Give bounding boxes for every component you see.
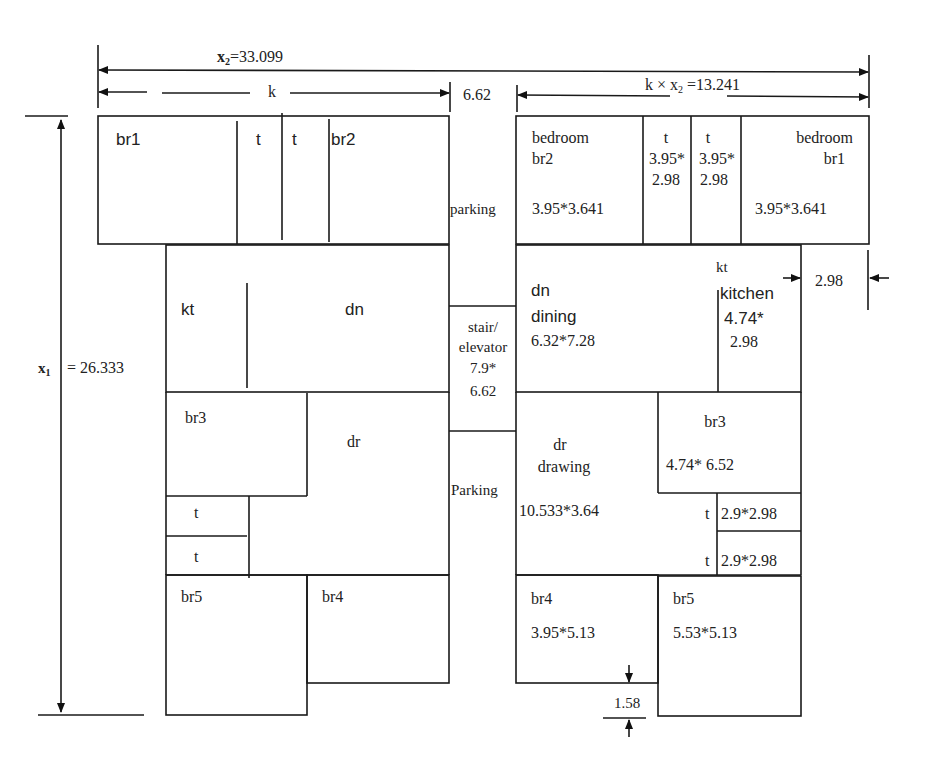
- room-br5: br5: [181, 588, 202, 605]
- stair-label-1: stair/: [468, 319, 499, 335]
- gap-label: 6.62: [463, 86, 491, 103]
- parking-top-label: parking: [450, 201, 496, 217]
- room-kt: kt: [181, 300, 195, 319]
- room-dr-label-1: dr: [553, 436, 567, 453]
- x1-value: = 26.333: [67, 359, 124, 376]
- dimension-k: k 6.62: [99, 82, 491, 112]
- br4-offset-label: 1.58: [614, 695, 640, 711]
- room-br4-size: 3.95*5.13: [531, 624, 595, 641]
- room-br2-label-2: br2: [532, 150, 553, 167]
- room-t1-label: t: [664, 129, 669, 146]
- room-br1: br1: [116, 130, 141, 149]
- room-t2-size-1: 3.95*: [699, 150, 735, 167]
- dimension-x1: x1 = 26.333: [25, 116, 144, 715]
- room-t3-size: 2.9*2.98: [721, 505, 777, 522]
- room-br1-label-2: br1: [824, 150, 845, 167]
- room-t4-size: 2.9*2.98: [721, 552, 777, 569]
- room-t1: t: [256, 130, 261, 149]
- kitchen-width-label: 2.98: [815, 272, 843, 289]
- room-kt-size-2: 2.98: [730, 333, 758, 350]
- room-dr-size: 10.533*3.64: [519, 502, 599, 519]
- room-br5-label: br5: [673, 590, 694, 607]
- room-kt-label-2: kitchen: [720, 284, 774, 303]
- x2-var: x2=33.099: [217, 48, 283, 67]
- room-dn: dn: [345, 300, 364, 319]
- middle-core: parking stair/ elevator 7.9* 6.62 Parkin…: [449, 201, 516, 498]
- room-dr-label-2: drawing: [538, 458, 590, 476]
- room-t1-size-1: 3.95*: [649, 150, 685, 167]
- room-dn-label-1: dn: [531, 281, 550, 300]
- room-t2-size-2: 2.98: [700, 171, 728, 188]
- room-br3: br3: [185, 409, 206, 426]
- room-br3-size: 4.74* 6.52: [666, 456, 734, 473]
- room-br1-label-1: bedroom: [796, 129, 853, 146]
- room-br4: br4: [322, 588, 343, 605]
- room-br2-size: 3.95*3.641: [532, 200, 604, 217]
- room-t2: t: [292, 130, 297, 149]
- room-t1-size-2: 2.98: [652, 171, 680, 188]
- room-dn-size: 6.32*7.28: [531, 332, 595, 349]
- room-t4: t: [194, 548, 199, 565]
- room-dr: dr: [347, 433, 361, 450]
- room-dn-label-2: dining: [531, 307, 576, 326]
- left-floor-plan: br1 t t br2 kt dn br3 dr t t br5 br4: [98, 113, 449, 715]
- right-floor-plan: 2.98 1.58 bedroom br2 3.95*3.641 t 3.95*…: [516, 116, 889, 737]
- x1-var: x1: [38, 360, 51, 378]
- room-br5-size: 5.53*5.13: [673, 624, 737, 641]
- room-br2: br2: [331, 130, 356, 149]
- kx2-label: k × x2=13.241: [645, 76, 740, 95]
- k-label: k: [268, 83, 276, 100]
- room-br3-label: br3: [704, 413, 725, 430]
- room-br1-size: 3.95*3.641: [755, 200, 827, 217]
- room-t2-label: t: [706, 129, 711, 146]
- room-kt-size-1: 4.74*: [724, 309, 764, 328]
- room-t4-label: t: [705, 552, 710, 569]
- room-br2-label-1: bedroom: [532, 129, 589, 146]
- room-kt-label-1: kt: [716, 259, 729, 275]
- stair-label-3: 7.9*: [470, 360, 496, 376]
- room-br4-label: br4: [531, 590, 552, 607]
- dimension-kx2: k × x2=13.241: [517, 76, 868, 112]
- room-t3-label: t: [705, 505, 710, 522]
- room-t3: t: [194, 504, 199, 521]
- parking-bottom-label: Parking: [451, 482, 498, 498]
- floor-plan-diagram: x2=33.099 k 6.62 k × x2=13.241 x1 = 26.3…: [0, 0, 925, 760]
- stair-label-4: 6.62: [470, 383, 496, 399]
- stair-label-2: elevator: [459, 339, 507, 355]
